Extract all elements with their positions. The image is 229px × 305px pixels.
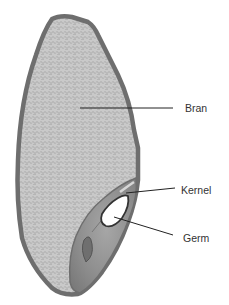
grain-diagram: Bran Kernel Germ <box>0 0 229 305</box>
label-kernel: Kernel <box>181 184 211 196</box>
label-bran: Bran <box>185 102 207 114</box>
label-germ: Germ <box>183 232 209 244</box>
grain-illustration <box>0 0 229 305</box>
